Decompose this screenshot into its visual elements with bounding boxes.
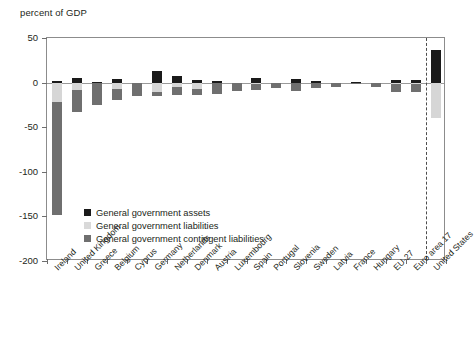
bar-segment-liabilities [152,83,162,93]
y-axis-tick [42,172,47,173]
x-axis-tick [366,259,367,264]
bar-segment-contingent-liabilities [271,83,281,88]
bar-segment-contingent-liabilities [232,83,242,91]
bar-segment-contingent-liabilities [132,83,142,96]
x-axis-tick [227,259,228,264]
bar-segment-contingent-liabilities [391,84,401,92]
x-axis-tick [167,259,168,264]
y-axis-tick-label: 0 [4,78,38,88]
bar-segment-contingent-liabilities [311,83,321,88]
x-axis-tick [306,259,307,264]
x-axis-tick [326,259,327,264]
bar-segment-assets [152,71,162,82]
bar-segment-contingent-liabilities [331,83,341,87]
x-axis-tick [107,259,108,264]
bar-segment-liabilities [52,83,62,103]
y-axis-tick [42,83,47,84]
x-axis-tick [446,259,447,264]
y-axis-tick-label: -150 [4,211,38,221]
bar-segment-liabilities [72,83,82,90]
x-axis-tick [266,259,267,264]
bar-segment-contingent-liabilities [371,83,381,87]
bar-segment-contingent-liabilities [172,87,182,95]
x-axis-tick [346,259,347,264]
bar-segment-contingent-liabilities [52,102,62,214]
bar-segment-contingent-liabilities [212,83,222,94]
y-axis-tick-label: -100 [4,167,38,177]
x-axis-tick [147,259,148,264]
bar-segment-contingent-liabilities [192,89,202,95]
x-axis-tick [187,259,188,264]
y-axis-title: percent of GDP [20,7,87,18]
x-axis-tick [87,259,88,264]
region-separator-dashed-line [426,38,427,259]
x-axis-tick [127,259,128,264]
bar-segment-liabilities [431,83,441,119]
x-axis-tick [286,259,287,264]
y-axis-tick-label: -50 [4,122,38,132]
legend-label-contingent-liabilities: General government contingent liabilitie… [96,234,264,244]
zero-reference-line [47,83,444,84]
x-axis-tick [207,259,208,264]
x-axis-tick [247,259,248,264]
bar-segment-contingent-liabilities [152,92,162,96]
legend-label-liabilities: General government liabilities [96,221,218,231]
bar-segment-assets [431,50,441,83]
legend-item-liabilities: General government liabilities [84,220,264,232]
x-axis-tick [47,259,48,264]
legend-item-contingent-liabilities: General government contingent liabilitie… [84,233,264,245]
bar-segment-contingent-liabilities [411,84,421,92]
y-axis-tick [42,216,47,217]
x-axis-tick [67,259,68,264]
legend-item-assets: General government assets [84,207,264,219]
legend-label-assets: General government assets [96,208,210,218]
x-axis-tick [406,259,407,264]
legend-swatch-icon-liabilities [84,222,91,229]
bar-segment-contingent-liabilities [72,90,82,112]
bar-segment-contingent-liabilities [112,89,122,101]
x-axis-tick [386,259,387,264]
y-axis-tick-label: -200 [4,256,38,266]
bar-segment-contingent-liabilities [351,83,361,84]
legend-swatch-icon-contingent-liabilities [84,235,91,242]
y-axis-tick [42,38,47,39]
x-axis-tick [426,259,427,264]
chart-legend: General government assets General govern… [84,207,264,246]
bar-segment-contingent-liabilities [92,83,102,105]
y-axis-tick-label: 50 [4,33,38,43]
bar-segment-contingent-liabilities [291,83,301,90]
legend-swatch-icon-assets [84,209,91,216]
y-axis-tick [42,127,47,128]
bar-segment-contingent-liabilities [251,84,261,89]
